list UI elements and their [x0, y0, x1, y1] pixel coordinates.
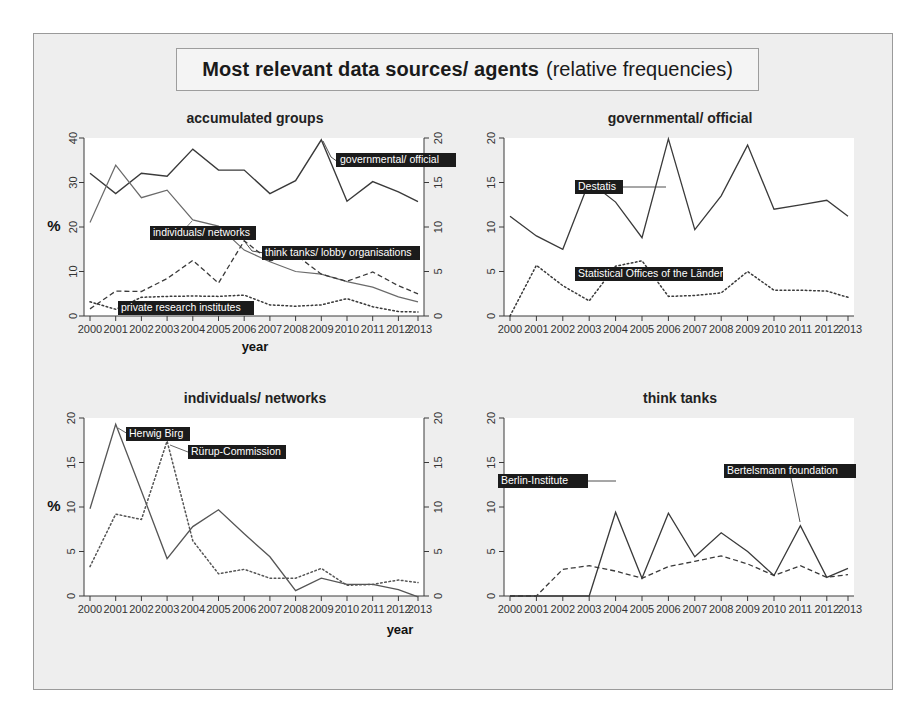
- svg-text:Herwig Birg: Herwig Birg: [129, 427, 183, 439]
- annotation-bertelsmann-foundation: Bertelsmann foundation: [724, 464, 856, 478]
- svg-text:2009: 2009: [309, 603, 333, 615]
- svg-text:2003: 2003: [155, 603, 179, 615]
- y-axis-label-left-bottom: %: [47, 497, 60, 514]
- annotation-ruerup-commission: Rürup-Commission: [188, 445, 286, 459]
- svg-text:2005: 2005: [630, 323, 654, 335]
- svg-text:10: 10: [485, 221, 497, 233]
- panel-individuals-networks: individuals/ networks 0 5 10 15 20 %: [40, 390, 470, 650]
- svg-text:20: 20: [432, 132, 444, 144]
- svg-text:0: 0: [432, 593, 444, 599]
- svg-text:2004: 2004: [181, 603, 205, 615]
- svg-text:2007: 2007: [683, 603, 707, 615]
- svg-text:10: 10: [432, 501, 444, 513]
- svg-text:15: 15: [65, 456, 77, 468]
- svg-text:30: 30: [67, 176, 79, 188]
- svg-text:2009: 2009: [735, 323, 759, 335]
- svg-text:2010: 2010: [335, 603, 359, 615]
- svg-text:0: 0: [432, 313, 444, 319]
- svg-text:2006: 2006: [232, 323, 256, 335]
- x-axis-label: year: [242, 339, 269, 354]
- svg-text:2013: 2013: [408, 323, 432, 335]
- x-axis-label-bottom-left: year: [387, 622, 414, 637]
- svg-text:2000: 2000: [498, 323, 522, 335]
- svg-text:2013: 2013: [408, 603, 432, 615]
- svg-text:2007: 2007: [683, 323, 707, 335]
- svg-text:2002: 2002: [551, 603, 575, 615]
- svg-text:20: 20: [432, 412, 444, 424]
- svg-text:2007: 2007: [258, 603, 282, 615]
- annotation-statistical-offices-laender: Statistical Offices of the Länder: [575, 267, 724, 281]
- annotation-berlin-institute: Berlin-Institute: [498, 474, 588, 488]
- svg-text:10: 10: [485, 501, 497, 513]
- svg-text:2010: 2010: [762, 603, 786, 615]
- panel-think-tanks: think tanks 0 5 10 15 20: [470, 390, 890, 650]
- svg-text:15: 15: [485, 456, 497, 468]
- svg-text:5: 5: [432, 548, 444, 554]
- svg-text:2003: 2003: [577, 603, 601, 615]
- svg-text:2001: 2001: [103, 603, 127, 615]
- svg-text:0: 0: [485, 313, 497, 319]
- svg-text:2013: 2013: [838, 603, 862, 615]
- svg-text:2008: 2008: [283, 603, 307, 615]
- svg-text:Rürup-Commission: Rürup-Commission: [191, 445, 281, 457]
- svg-text:2002: 2002: [129, 323, 153, 335]
- svg-text:15: 15: [485, 176, 497, 188]
- svg-text:governmental/ official: governmental/ official: [340, 153, 439, 165]
- svg-text:20: 20: [65, 412, 77, 424]
- svg-text:think tanks/ lobby organisatio: think tanks/ lobby organisations: [265, 246, 412, 258]
- svg-text:2010: 2010: [762, 323, 786, 335]
- svg-text:15: 15: [432, 456, 444, 468]
- svg-text:2011: 2011: [361, 323, 385, 335]
- svg-text:2010: 2010: [335, 323, 359, 335]
- svg-text:2012: 2012: [815, 323, 839, 335]
- chart-governmental-official: 0 5 10 15 20 20002001 20022003 20042005: [470, 132, 890, 360]
- svg-text:2004: 2004: [603, 603, 627, 615]
- svg-text:2004: 2004: [181, 323, 205, 335]
- svg-text:5: 5: [485, 548, 497, 554]
- annotation-governmental-official: governmental/ official: [336, 153, 456, 167]
- svg-text:10: 10: [65, 501, 77, 513]
- svg-text:2005: 2005: [206, 603, 230, 615]
- svg-text:individuals/ networks: individuals/ networks: [153, 226, 250, 238]
- panel-title-governmental-official: governmental/ official: [470, 110, 890, 126]
- svg-text:2005: 2005: [630, 603, 654, 615]
- svg-text:2001: 2001: [524, 603, 548, 615]
- svg-text:0: 0: [485, 593, 497, 599]
- svg-text:2011: 2011: [361, 603, 385, 615]
- panel-accumulated-groups: accumulated groups 0 10 20 30 40 %: [40, 110, 470, 360]
- y-axis-label-left: %: [47, 217, 60, 234]
- panel-governmental-official: governmental/ official 0 5 10 15 20: [470, 110, 890, 360]
- svg-text:2006: 2006: [656, 323, 680, 335]
- svg-text:5: 5: [432, 268, 444, 274]
- svg-text:2013: 2013: [838, 323, 862, 335]
- svg-text:Berlin-Institute: Berlin-Institute: [501, 474, 568, 486]
- svg-text:2003: 2003: [155, 323, 179, 335]
- svg-text:2002: 2002: [129, 603, 153, 615]
- svg-text:5: 5: [65, 548, 77, 554]
- figure-title-box: Most relevant data sources/ agents (rela…: [176, 48, 759, 91]
- svg-text:20: 20: [485, 132, 497, 144]
- svg-text:0: 0: [67, 313, 79, 319]
- chart-think-tanks: 0 5 10 15 20 20002001 20022003 20042005: [470, 412, 890, 648]
- svg-text:2004: 2004: [603, 323, 627, 335]
- svg-text:2008: 2008: [283, 323, 307, 335]
- figure-title-normal: (relative frequencies): [546, 58, 733, 81]
- panel-title-individuals-networks: individuals/ networks: [40, 390, 470, 406]
- svg-text:2009: 2009: [735, 603, 759, 615]
- svg-text:2008: 2008: [709, 323, 733, 335]
- annotation-think-tanks-lobby: think tanks/ lobby organisations: [262, 246, 420, 260]
- annotation-herwig-birg: Herwig Birg: [126, 427, 190, 441]
- svg-text:2005: 2005: [206, 323, 230, 335]
- annotation-individuals-networks: individuals/ networks: [150, 226, 256, 240]
- svg-text:2000: 2000: [498, 603, 522, 615]
- figure-frame: Most relevant data sources/ agents (rela…: [33, 33, 893, 690]
- chart-accumulated-groups: 0 10 20 30 40 % 0 5 10 15 20: [40, 132, 470, 360]
- svg-text:20: 20: [485, 412, 497, 424]
- svg-text:2008: 2008: [709, 603, 733, 615]
- panel-title-accumulated-groups: accumulated groups: [40, 110, 470, 126]
- svg-text:2006: 2006: [232, 603, 256, 615]
- svg-text:2011: 2011: [789, 323, 813, 335]
- svg-text:10: 10: [432, 221, 444, 233]
- svg-text:2011: 2011: [789, 603, 813, 615]
- svg-text:Bertelsmann foundation: Bertelsmann foundation: [727, 464, 838, 476]
